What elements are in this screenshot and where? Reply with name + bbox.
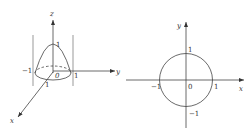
x-tick-1-2d: 1 xyxy=(214,83,218,91)
z-tick-1: 1 xyxy=(56,41,60,49)
y-tick-1: 1 xyxy=(74,72,78,80)
base-circle-front xyxy=(35,73,71,80)
y-axis-label-3d: y xyxy=(115,68,121,76)
x-axis-3d xyxy=(18,72,53,117)
figure-canvas: z 1 −1 0 1 1 y x y 1 −1 0 1 x −1 xyxy=(0,0,252,137)
unit-circle-plot: y 1 −1 0 1 x −1 xyxy=(126,22,244,128)
x-tick-1: 1 xyxy=(45,81,49,89)
x-axis-label-2d: x xyxy=(239,85,243,93)
y-tick-1-2d: 1 xyxy=(188,46,192,54)
origin-label-3d: 0 xyxy=(55,72,60,80)
z-axis-label: z xyxy=(49,10,54,18)
y-axis-label-2d: y xyxy=(176,22,182,30)
x-tick-neg1-2d: −1 xyxy=(151,83,161,91)
x-axis-label-3d: x xyxy=(10,117,14,125)
origin-label-2d: 0 xyxy=(188,83,192,91)
y-tick-neg1-2d: −1 xyxy=(189,110,199,118)
y-tick-neg1: −1 xyxy=(22,67,32,75)
paraboloid-3d-plot: z 1 −1 0 1 1 y x xyxy=(10,10,121,125)
